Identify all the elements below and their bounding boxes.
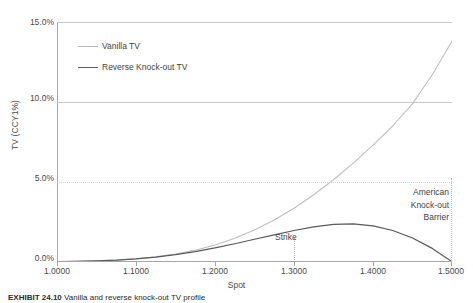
gridline-15	[57, 22, 452, 23]
legend-label-vanilla-tv: Vanilla TV	[102, 41, 140, 51]
gridline-10	[57, 102, 452, 103]
x-axis-line	[57, 261, 452, 262]
annotation-knock-out-barrier: American Knock-out Barrier	[411, 186, 449, 224]
y-axis-line	[57, 22, 58, 262]
y-tick-label-15: 15.0%	[6, 17, 54, 27]
x-tick-label-3: 1.2000	[185, 266, 245, 276]
legend-label-reverse-knock-out-tv: Reverse Knock-out TV	[102, 62, 187, 72]
x-tick-label-2: 1.1000	[106, 266, 166, 276]
x-tick-label-1: 1.0000	[27, 266, 87, 276]
y-tick-label-5: 5.0%	[6, 173, 54, 183]
legend-item-reverse-knock-out-tv: Reverse Knock-out TV	[78, 59, 298, 75]
annotation-strike: Strike	[275, 232, 297, 242]
x-tick-label-6: 1.5000	[421, 266, 473, 276]
chart-container: TV (CCY1%) 15.0% 10.0% 5.0% 0.0%	[0, 0, 473, 303]
legend-swatch-reverse-knock-out-tv	[78, 67, 98, 68]
x-tick-label-5: 1.4000	[343, 266, 403, 276]
y-tick-label-0: 0.0%	[6, 253, 54, 263]
annotation-barrier-line-2: Knock-out	[411, 199, 449, 212]
gridline-5	[57, 182, 452, 183]
annotation-barrier-line-3: Barrier	[411, 211, 449, 224]
y-axis-tick-labels: 15.0% 10.0% 5.0% 0.0%	[0, 0, 54, 303]
legend-item-vanilla-tv: Vanilla TV	[78, 38, 298, 54]
caption-label: EXHIBIT 24.10	[8, 293, 62, 302]
caption-text: Vanilla and reverse knock-out TV profile	[64, 293, 205, 302]
figure-caption: EXHIBIT 24.10 Vanilla and reverse knock-…	[8, 293, 468, 302]
annotation-barrier-line-1: American	[411, 186, 449, 199]
x-axis-title: Spot	[0, 280, 473, 290]
y-tick-label-10: 10.0%	[6, 93, 54, 103]
x-tick-label-4: 1.3000	[264, 266, 324, 276]
legend-swatch-vanilla-tv	[78, 46, 98, 47]
legend: Vanilla TV Reverse Knock-out TV	[78, 38, 298, 80]
barrier-vertical-line	[451, 178, 452, 262]
